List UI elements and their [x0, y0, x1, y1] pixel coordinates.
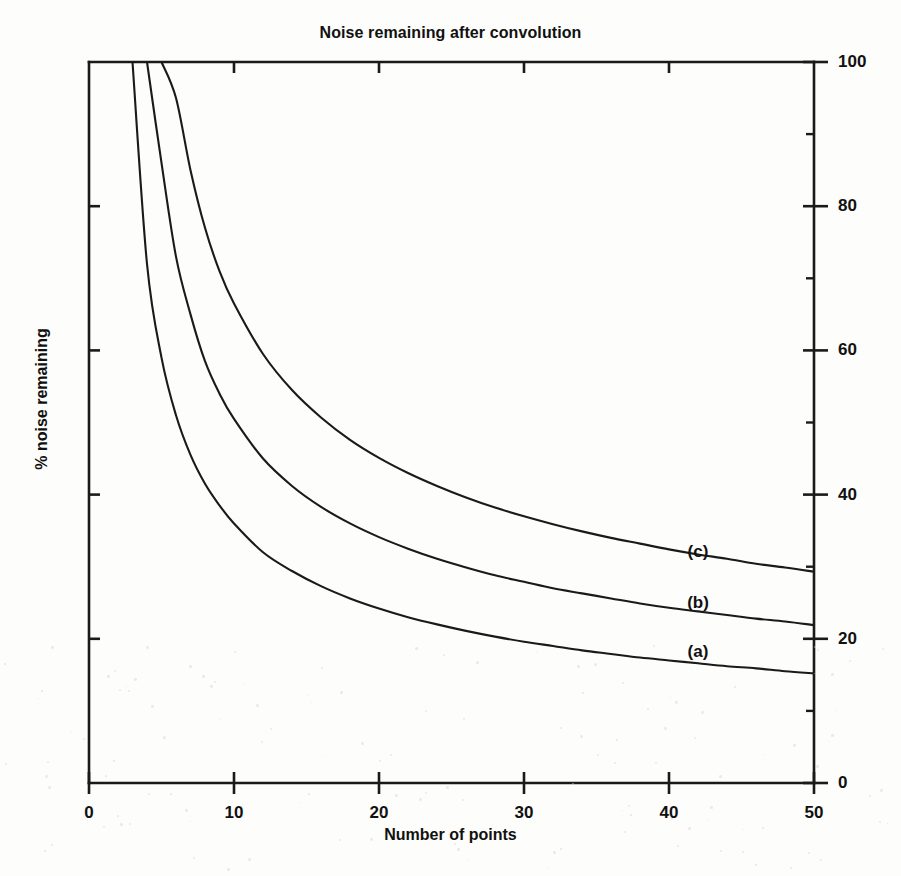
paper-speck — [630, 814, 632, 816]
paper-speck — [831, 734, 834, 737]
paper-speck — [308, 793, 310, 795]
paper-speck — [45, 775, 48, 778]
paper-speck — [572, 783, 574, 785]
paper-speck — [816, 765, 819, 768]
paper-speck — [202, 675, 205, 678]
x-tick-label: 50 — [805, 803, 824, 823]
paper-speck — [701, 711, 704, 714]
paper-speck — [210, 685, 213, 688]
paper-speck — [454, 843, 456, 845]
paper-speck — [577, 665, 580, 668]
paper-speck — [4, 663, 6, 665]
paper-speck — [120, 823, 123, 826]
y-tick-label: 100 — [838, 52, 866, 72]
x-tick-label: 30 — [515, 803, 534, 823]
paper-speck — [105, 775, 107, 777]
paper-speck — [594, 663, 597, 666]
paper-speck — [560, 848, 562, 850]
paper-speck — [664, 727, 667, 730]
y-tick-label: 80 — [838, 196, 857, 216]
paper-speck — [831, 673, 834, 676]
paper-speck — [189, 665, 192, 668]
paper-speck — [462, 799, 464, 801]
paper-speck — [340, 691, 343, 694]
paper-speck — [677, 845, 679, 847]
paper-speck — [457, 848, 460, 851]
x-tick-label: 20 — [370, 803, 389, 823]
paper-speck — [170, 793, 172, 795]
paper-speck — [234, 651, 236, 653]
paper-speck — [675, 701, 678, 704]
curve-c — [162, 62, 815, 572]
paper-speck — [379, 760, 381, 762]
figure-canvas: Noise remaining after convolution % nois… — [0, 0, 901, 876]
paper-speck — [415, 647, 418, 650]
paper-speck — [185, 809, 188, 812]
x-tick-label: 10 — [225, 803, 244, 823]
paper-speck — [113, 760, 115, 762]
paper-speck — [446, 786, 449, 789]
y-tick-label: 40 — [838, 485, 857, 505]
paper-speck — [467, 860, 468, 861]
paper-speck — [762, 827, 764, 829]
paper-speck — [151, 705, 154, 708]
y-tick-label: 0 — [838, 773, 847, 793]
paper-speck — [880, 789, 883, 792]
paper-speck — [146, 646, 149, 649]
paper-speck — [339, 839, 341, 841]
paper-speck — [847, 641, 849, 643]
paper-speck — [370, 838, 373, 841]
paper-speck — [308, 695, 309, 696]
paper-speck — [814, 646, 816, 648]
paper-speck — [148, 793, 150, 795]
paper-speck — [321, 667, 323, 669]
paper-speck — [793, 744, 796, 747]
curve-label-b: (b) — [687, 593, 709, 613]
paper-speck — [227, 868, 230, 871]
paper-speck — [244, 683, 245, 684]
paper-speck — [390, 754, 392, 756]
x-tick-label: 0 — [84, 803, 93, 823]
curve-label-c: (c) — [688, 542, 709, 562]
paper-speck — [41, 690, 43, 692]
paper-speck — [616, 739, 618, 741]
paper-speck — [83, 738, 85, 740]
paper-speck — [597, 754, 599, 756]
paper-speck — [671, 818, 673, 820]
paper-speck — [256, 704, 259, 707]
y-tick-label: 60 — [838, 340, 857, 360]
paper-speck — [755, 864, 757, 866]
x-tick-label: 40 — [660, 803, 679, 823]
paper-speck — [582, 692, 584, 694]
paper-speck — [869, 795, 871, 797]
paper-speck — [5, 763, 7, 765]
paper-speck — [44, 850, 46, 852]
paper-speck — [655, 762, 657, 764]
paper-speck — [381, 813, 383, 815]
paper-speck — [117, 815, 119, 817]
curve-label-a: (a) — [688, 642, 709, 662]
paper-speck — [107, 675, 110, 678]
y-tick-label: 20 — [838, 629, 857, 649]
curve-b — [147, 62, 814, 625]
paper-speck — [820, 859, 822, 861]
paper-speck — [51, 844, 53, 846]
paper-speck — [114, 670, 116, 672]
paper-speck — [647, 708, 649, 710]
paper-speck — [742, 851, 744, 853]
paper-speck — [134, 678, 137, 681]
curve-a — [133, 62, 815, 673]
paper-speck — [622, 682, 624, 684]
plot-area — [0, 0, 901, 876]
paper-speck — [51, 646, 54, 649]
paper-speck — [614, 762, 616, 764]
paper-speck — [163, 736, 166, 739]
paper-speck — [734, 686, 736, 688]
